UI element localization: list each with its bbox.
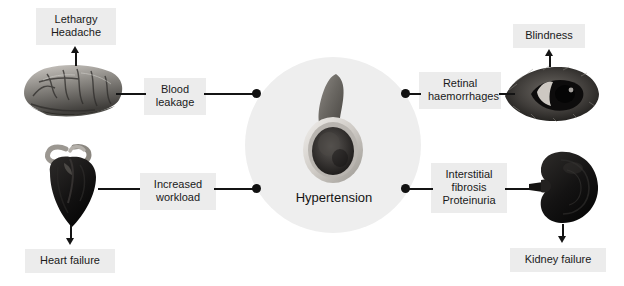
mechanism-label-increased-workload: Increased workload (140, 173, 216, 210)
outcome-label-kidney-failure: Kidney failure (510, 248, 606, 272)
outcome-label-lethargy-headache: Lethargy Headache (36, 8, 116, 45)
kidney-mechanism-connector-right (505, 188, 531, 190)
eye-mechanism-connector-left (406, 93, 421, 95)
brain-mechanism-connector-left (116, 93, 146, 95)
brain-image (17, 62, 127, 120)
brain-mechanism-connector-right (204, 93, 258, 95)
mechanism-label-interstitial-fibrosis-proteinuria: Interstitial fibrosis Proteinuria (431, 163, 507, 213)
mechanism-label-blood-leakage: Blood leakage (144, 78, 206, 115)
brain-center-node-dot (252, 89, 261, 98)
artery-cross-section-image (296, 72, 372, 194)
kidney-outcome-arrow-icon (558, 236, 566, 243)
eye-outcome-connector (549, 55, 551, 67)
heart-mechanism-connector-left (98, 188, 140, 190)
brain-outcome-connector (75, 52, 77, 66)
eye-image (503, 64, 601, 124)
outcome-label-heart-failure: Heart failure (25, 249, 115, 273)
heart-outcome-connector (70, 225, 72, 239)
center-label-hypertension: Hypertension (272, 190, 396, 205)
hypertension-organ-damage-diagram: Hypertension (0, 0, 624, 286)
heart-image (36, 143, 106, 231)
eye-mechanism-connector-right (499, 93, 515, 95)
heart-center-node-dot (252, 184, 261, 193)
heart-outcome-arrow-icon (66, 238, 74, 245)
kidney-mechanism-connector-left (406, 188, 433, 190)
kidney-image (527, 148, 603, 228)
mechanism-label-retinal-haemorrhages: Retinal haemorrhages (419, 72, 501, 109)
outcome-label-blindness: Blindness (513, 24, 585, 48)
